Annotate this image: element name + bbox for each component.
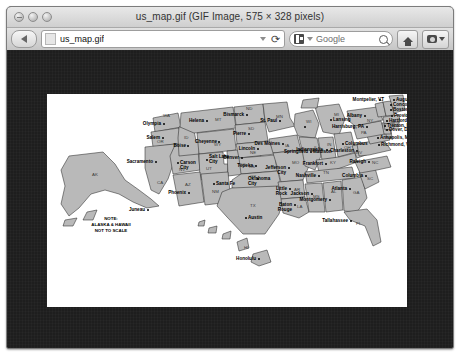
search-input[interactable]: Google xyxy=(289,31,393,47)
svg-text:NC: NC xyxy=(372,160,378,165)
svg-text:Des Moines: Des Moines xyxy=(254,141,280,146)
reload-icon[interactable]: ⟳ xyxy=(271,34,280,45)
svg-text:Bismarck: Bismarck xyxy=(223,112,244,117)
home-button[interactable] xyxy=(397,30,418,49)
svg-text:TX: TX xyxy=(250,203,256,208)
svg-text:Montgomery: Montgomery xyxy=(299,197,327,202)
search-engine-label: Google xyxy=(316,34,345,44)
svg-text:Madison: Madison xyxy=(313,149,332,154)
svg-text:City: City xyxy=(248,181,257,186)
svg-text:Columbus: Columbus xyxy=(345,141,368,146)
svg-text:Hartford, CT: Hartford, CT xyxy=(389,118,407,123)
window-titlebar[interactable]: us_map.gif (GIF Image, 575 × 328 pixels) xyxy=(7,7,453,28)
us-map-svg: WAOR CANV IDMT WYUT AZCO NMND SDNE KSOK … xyxy=(47,94,407,307)
snapshot-menu-button[interactable] xyxy=(422,30,449,49)
svg-text:WI: WI xyxy=(306,119,311,124)
svg-text:Rouge: Rouge xyxy=(278,207,293,212)
svg-text:Boise: Boise xyxy=(173,143,186,148)
svg-text:Tallahassee: Tallahassee xyxy=(322,218,348,223)
scale-note: NOTE: ALASKA & HAWAII NOT TO SCALE xyxy=(91,216,130,233)
svg-text:Austin: Austin xyxy=(248,215,262,220)
svg-text:City: City xyxy=(180,165,189,170)
svg-text:CA: CA xyxy=(157,180,163,185)
svg-text:FL: FL xyxy=(356,221,362,226)
window-title: us_map.gif (GIF Image, 575 × 328 pixels) xyxy=(7,7,453,27)
svg-text:Atlanta: Atlanta xyxy=(331,186,347,191)
svg-text:WV: WV xyxy=(355,150,362,155)
svg-text:UT: UT xyxy=(206,166,212,171)
svg-text:St. Paul: St. Paul xyxy=(260,118,277,123)
svg-text:NOT TO SCALE: NOT TO SCALE xyxy=(95,228,128,233)
svg-text:MT: MT xyxy=(215,117,222,122)
svg-text:Helena: Helena xyxy=(189,118,205,123)
svg-text:Honolulu: Honolulu xyxy=(236,256,256,261)
svg-text:Pierre: Pierre xyxy=(233,131,246,136)
svg-text:Frankfort: Frankfort xyxy=(303,161,324,166)
svg-text:Jackson: Jackson xyxy=(291,191,310,196)
svg-text:Santa Fe: Santa Fe xyxy=(216,181,236,186)
svg-text:Charleston: Charleston xyxy=(330,148,354,153)
svg-text:KY: KY xyxy=(330,160,336,165)
chevron-down-icon[interactable] xyxy=(260,37,266,41)
back-arrow-icon xyxy=(21,35,27,43)
google-icon xyxy=(294,34,304,44)
svg-text:Concord: Concord xyxy=(393,102,407,107)
address-bar-value: us_map.gif xyxy=(60,34,104,44)
svg-text:Boston, MA: Boston, MA xyxy=(393,107,407,112)
svg-text:HI: HI xyxy=(244,245,248,250)
image-canvas[interactable]: WAOR CANV IDMT WYUT AZCO NMND SDNE KSOK … xyxy=(47,94,407,307)
svg-text:Augusta: Augusta xyxy=(396,97,407,102)
svg-text:Columbia: Columbia xyxy=(342,173,363,178)
address-bar[interactable]: us_map.gif ⟳ xyxy=(41,30,285,48)
svg-text:Rock: Rock xyxy=(276,191,288,196)
svg-text:NM: NM xyxy=(212,189,219,194)
svg-text:Olympia: Olympia xyxy=(143,121,162,126)
svg-text:WA: WA xyxy=(163,113,170,118)
svg-text:Lincoln: Lincoln xyxy=(239,146,256,151)
svg-text:Nashville: Nashville xyxy=(296,173,317,178)
svg-text:TN: TN xyxy=(323,170,329,175)
svg-text:ND: ND xyxy=(246,106,252,111)
svg-text:IA: IA xyxy=(285,143,289,148)
image-viewer-content[interactable]: WAOR CANV IDMT WYUT AZCO NMND SDNE KSOK … xyxy=(7,50,453,348)
svg-text:PA: PA xyxy=(361,130,367,135)
svg-text:City: City xyxy=(209,159,218,164)
svg-text:SD: SD xyxy=(248,126,254,131)
chevron-down-icon xyxy=(439,37,445,41)
svg-text:Cheyenne: Cheyenne xyxy=(195,139,217,144)
svg-text:Salem: Salem xyxy=(146,135,160,140)
svg-text:Sacramento: Sacramento xyxy=(127,159,153,164)
svg-text:Raleigh: Raleigh xyxy=(349,159,366,164)
svg-text:Topeka: Topeka xyxy=(237,163,253,168)
svg-text:LA: LA xyxy=(297,204,302,209)
search-icon[interactable] xyxy=(379,35,388,44)
svg-text:ID: ID xyxy=(184,135,188,140)
svg-text:IN: IN xyxy=(327,142,331,147)
address-bar-actions: ⟳ xyxy=(260,34,281,45)
svg-text:Lansing: Lansing xyxy=(333,117,351,122)
svg-text:SC: SC xyxy=(367,176,373,181)
svg-text:AZ: AZ xyxy=(185,182,191,187)
home-icon xyxy=(403,37,413,42)
svg-text:MO: MO xyxy=(292,160,300,165)
camera-icon xyxy=(427,35,437,43)
svg-text:ALASKA & HAWAII: ALASKA & HAWAII xyxy=(91,222,130,227)
browser-window: us_map.gif (GIF Image, 575 × 328 pixels)… xyxy=(6,6,454,349)
browser-toolbar: us_map.gif ⟳ Google xyxy=(7,28,453,51)
svg-text:Phoenix: Phoenix xyxy=(168,190,186,195)
search-engine-chevron-icon[interactable] xyxy=(307,37,313,41)
us-map-image: WAOR CANV IDMT WYUT AZCO NMND SDNE KSOK … xyxy=(47,94,407,307)
back-button[interactable] xyxy=(11,30,37,48)
svg-text:Montpelier, VT: Montpelier, VT xyxy=(353,97,385,102)
svg-text:Providence: Providence xyxy=(394,113,407,118)
svg-text:NY: NY xyxy=(367,118,373,123)
svg-text:GA: GA xyxy=(353,190,359,195)
svg-text:MN: MN xyxy=(276,114,283,119)
svg-text:Annapolis, MD: Annapolis, MD xyxy=(380,135,407,140)
svg-text:Juneau: Juneau xyxy=(129,207,145,212)
svg-text:NOTE:: NOTE: xyxy=(104,216,118,221)
svg-text:City: City xyxy=(277,170,286,175)
page-favicon-icon xyxy=(45,33,56,45)
svg-text:Richmond, VA: Richmond, VA xyxy=(381,142,407,147)
svg-text:Trenton, NJ: Trenton, NJ xyxy=(387,123,407,128)
